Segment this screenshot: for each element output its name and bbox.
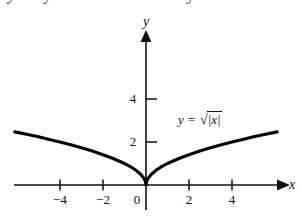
equation-radicand: |x|: [207, 111, 222, 127]
x-axis-label: x: [289, 178, 295, 192]
x-tick-label-0: 0: [130, 193, 144, 206]
plot-area: [0, 0, 301, 222]
y-axis-arrowhead: [141, 30, 152, 42]
y-tick-label-4: 4: [126, 92, 140, 105]
x-tick-label-4: 4: [225, 193, 239, 206]
x-tick-label-2: 2: [182, 193, 196, 206]
curve-equation-label: y = √|x|: [178, 113, 222, 127]
y-tick-label-2: 2: [126, 135, 140, 148]
y-axis-label: y: [143, 15, 149, 29]
x-tick-label--4: −4: [49, 193, 71, 206]
equation-lhs: y: [178, 112, 184, 127]
x-tick-label--2: −2: [92, 193, 114, 206]
equation-radical: √|x|: [199, 113, 222, 127]
figure-container: y is symmetric about the y-axis −4 −2 0 …: [0, 0, 301, 222]
equation-equals: =: [187, 112, 196, 127]
